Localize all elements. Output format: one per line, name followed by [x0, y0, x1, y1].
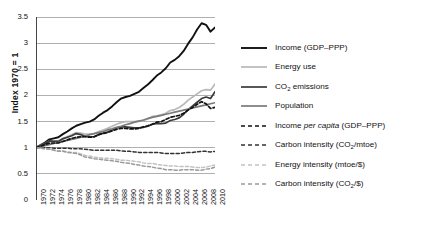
legend: Income (GDP–PPP)Energy useCO2 emissionsP…	[241, 38, 431, 194]
legend-item-carbon-intensity-mtoe[interactable]: Carbon intensity (CO2/mtoe)	[241, 136, 431, 156]
legend-label: Carbon intensity (CO2/$)	[275, 179, 363, 189]
legend-swatch-line-icon	[241, 140, 267, 150]
legend-label: Income (GDP–PPP)	[275, 43, 347, 53]
legend-swatch-line-icon	[241, 82, 267, 92]
y-axis-tick-label: 0.5	[2, 169, 28, 178]
y-axis-tick-label: 2	[2, 90, 28, 99]
legend-item-population[interactable]: Population	[241, 97, 431, 117]
legend-label: Energy intensity (mtoe/$)	[275, 160, 365, 170]
y-axis-tick-label: 3.5	[2, 12, 28, 21]
legend-swatch-line-icon	[241, 179, 267, 189]
x-axis-tick-label: 2010	[218, 189, 227, 205]
legend-item-energy-use[interactable]: Energy use	[241, 58, 431, 78]
chart-figure: Index 1970 = 1 00.511.522.533.5 19701972…	[0, 0, 433, 248]
plot-area	[36, 17, 215, 200]
y-axis-tick-label: 1	[2, 143, 28, 152]
legend-label: Carbon intensity (CO2/mtoe)	[275, 140, 377, 150]
legend-item-income[interactable]: Income (GDP–PPP)	[241, 38, 431, 58]
legend-label: Energy use	[275, 62, 316, 72]
legend-swatch-line-icon	[241, 121, 267, 131]
legend-label: CO2 emissions	[275, 82, 329, 92]
y-axis-tick-label: 2.5	[2, 64, 28, 73]
legend-item-energy-intensity[interactable]: Energy intensity (mtoe/$)	[241, 155, 431, 175]
y-axis-tick-label: 3	[2, 38, 28, 47]
legend-item-carbon-intensity-dollar[interactable]: Carbon intensity (CO2/$)	[241, 175, 431, 195]
legend-item-income-per-capita[interactable]: Income per capita (GDP–PPP)	[241, 116, 431, 136]
y-axis-tick-label: 1.5	[2, 117, 28, 126]
y-axis-title: Index 1970 = 1	[10, 38, 20, 128]
legend-item-co2-emissions[interactable]: CO2 emissions	[241, 77, 431, 97]
legend-swatch-line-icon	[241, 101, 267, 111]
legend-swatch-line-icon	[241, 62, 267, 72]
legend-swatch-line-icon	[241, 43, 267, 53]
y-axis-tick-label: 0	[2, 195, 28, 204]
legend-label: Population	[275, 101, 313, 111]
legend-label: Income per capita (GDP–PPP)	[275, 121, 385, 131]
plot-svg	[36, 17, 215, 200]
legend-swatch-line-icon	[241, 160, 267, 170]
series-lines	[36, 23, 215, 170]
